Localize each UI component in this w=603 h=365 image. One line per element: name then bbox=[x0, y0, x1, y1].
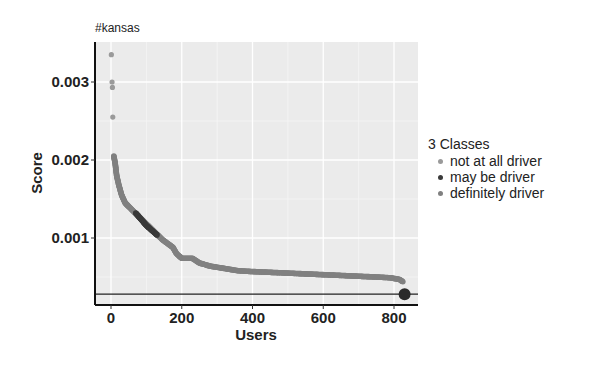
x-axis-title: Users bbox=[235, 326, 277, 343]
x-axis-ticks: 0200400600800 bbox=[107, 305, 407, 326]
y-tick-label: 0.003 bbox=[51, 73, 89, 90]
legend-label: not at all driver bbox=[450, 153, 542, 169]
legend-dot-icon bbox=[438, 175, 443, 180]
legend: 3 Classes not at all driver may be drive… bbox=[428, 136, 544, 201]
legend-item-not-at-all-driver: not at all driver bbox=[428, 153, 544, 169]
x-tick-label: 400 bbox=[240, 309, 265, 326]
chart-title: #kansas bbox=[95, 21, 140, 35]
x-tick-label: 0 bbox=[107, 309, 115, 326]
legend-dot-icon bbox=[438, 191, 443, 196]
x-tick-label: 600 bbox=[311, 309, 336, 326]
y-axis-title: Score bbox=[28, 152, 45, 194]
legend-item-may-be-driver: may be driver bbox=[428, 169, 544, 185]
legend-label: may be driver bbox=[450, 169, 535, 185]
legend-item-definitely-driver: definitely driver bbox=[428, 185, 544, 201]
x-tick-label: 800 bbox=[381, 309, 406, 326]
y-tick-label: 0.001 bbox=[51, 229, 89, 246]
y-axis-ticks: 0.0010.0020.003 bbox=[51, 73, 95, 246]
x-tick-label: 200 bbox=[169, 309, 194, 326]
legend-title: 3 Classes bbox=[428, 136, 544, 152]
y-tick-label: 0.002 bbox=[51, 151, 89, 168]
legend-label: definitely driver bbox=[450, 185, 544, 201]
legend-dot-icon bbox=[438, 159, 443, 164]
